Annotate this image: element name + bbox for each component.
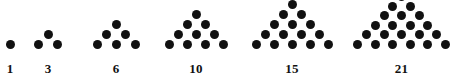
dot: [415, 30, 424, 39]
dot: [371, 40, 380, 49]
dot: [165, 40, 174, 49]
dot: [288, 40, 297, 49]
triangular-numbers-figure: 136101521: [0, 0, 454, 77]
dot: [397, 0, 406, 1]
dot: [270, 40, 279, 49]
triangular-number-group: 6: [88, 0, 144, 77]
dot: [183, 20, 192, 29]
dot: [192, 30, 201, 39]
dot: [279, 10, 288, 19]
dot: [288, 0, 297, 9]
dot: [6, 40, 15, 49]
dot: [406, 40, 415, 49]
dot: [121, 30, 130, 39]
dot: [415, 11, 424, 20]
triangular-number-label: 3: [29, 62, 67, 75]
dot: [219, 40, 228, 49]
triangular-number-label: 15: [247, 62, 337, 75]
dot-array: [88, 0, 144, 56]
dot: [306, 40, 315, 49]
dot: [388, 40, 397, 49]
dot: [201, 40, 210, 49]
triangular-number-label: 21: [351, 62, 452, 75]
triangular-number-group: 10: [160, 0, 232, 77]
dot: [279, 30, 288, 39]
dot: [44, 30, 53, 39]
dot: [353, 40, 362, 49]
triangular-number-group: 15: [247, 0, 337, 77]
dot-array: [0, 0, 20, 56]
dot: [371, 21, 380, 30]
dot: [362, 30, 371, 39]
dot: [261, 30, 270, 39]
dot-array: [247, 0, 337, 56]
dot: [270, 20, 279, 29]
dot: [201, 20, 210, 29]
dot: [315, 30, 324, 39]
dot-array: [351, 0, 452, 56]
dot: [112, 20, 121, 29]
dot-array: [29, 0, 67, 56]
dot: [252, 40, 261, 49]
dot: [93, 40, 102, 49]
dot: [432, 30, 441, 39]
triangular-number-label: 6: [88, 62, 144, 75]
triangular-number-group: 1: [0, 0, 20, 77]
dot: [388, 21, 397, 30]
dot: [423, 40, 432, 49]
dot-array: [160, 0, 232, 56]
triangular-number-label: 1: [0, 62, 20, 75]
triangular-number-group: 21: [351, 0, 452, 77]
dot: [297, 10, 306, 19]
dot: [192, 10, 201, 19]
dot: [112, 40, 121, 49]
dot: [288, 20, 297, 29]
dot: [174, 30, 183, 39]
dot: [423, 21, 432, 30]
dot: [102, 30, 111, 39]
dot: [397, 11, 406, 20]
dot: [131, 40, 140, 49]
dot: [210, 30, 219, 39]
triangular-number-group: 3: [29, 0, 67, 77]
dot: [306, 20, 315, 29]
dot: [388, 2, 397, 11]
dot: [183, 40, 192, 49]
dot: [380, 11, 389, 20]
dot: [53, 40, 62, 49]
triangular-number-label: 10: [160, 62, 232, 75]
dot: [380, 30, 389, 39]
dot: [441, 40, 450, 49]
dot: [406, 2, 415, 11]
dot: [406, 21, 415, 30]
dot: [297, 30, 306, 39]
dot: [397, 30, 406, 39]
dot: [34, 40, 43, 49]
dot: [324, 40, 333, 49]
